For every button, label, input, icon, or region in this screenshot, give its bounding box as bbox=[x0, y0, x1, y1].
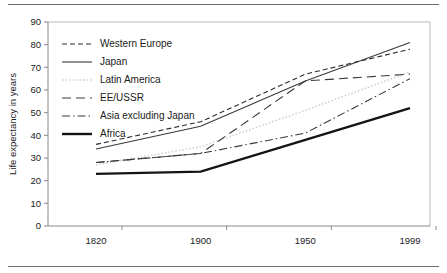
x-tick-label: 1820 bbox=[85, 235, 106, 246]
series-lines bbox=[96, 42, 410, 173]
top-rule bbox=[8, 4, 439, 5]
x-tick-label: 1900 bbox=[190, 235, 211, 246]
y-tick-label: 60 bbox=[30, 84, 41, 95]
plot-frame bbox=[48, 22, 430, 226]
y-tick-label: 30 bbox=[30, 152, 41, 163]
y-tick-label: 90 bbox=[30, 16, 41, 27]
legend-label: Western Europe bbox=[100, 38, 173, 49]
line-chart: 0102030405060708090 1820190019501999 Lif… bbox=[0, 10, 447, 260]
figure-container: 0102030405060708090 1820190019501999 Lif… bbox=[0, 0, 447, 273]
bottom-rule bbox=[8, 266, 439, 267]
legend-label: Japan bbox=[100, 56, 127, 67]
y-tick-label: 50 bbox=[30, 107, 41, 118]
x-axis: 1820190019501999 bbox=[48, 226, 436, 246]
legend-label: Africa bbox=[100, 128, 126, 139]
legend-label: Latin America bbox=[100, 74, 161, 85]
y-tick-label: 40 bbox=[30, 130, 41, 141]
y-tick-label: 10 bbox=[30, 198, 41, 209]
x-tick-label: 1999 bbox=[399, 235, 420, 246]
y-tick-label: 0 bbox=[36, 220, 41, 231]
y-tick-label: 20 bbox=[30, 175, 41, 186]
legend-label: Asia excluding Japan bbox=[100, 110, 195, 121]
legend-label: EE/USSR bbox=[100, 92, 144, 103]
chart-legend: Western EuropeJapanLatin AmericaEE/USSRA… bbox=[62, 38, 195, 139]
x-tick-label: 1950 bbox=[295, 235, 316, 246]
y-axis: 0102030405060708090 bbox=[30, 16, 48, 231]
y-axis-title: Life expectancy in years bbox=[7, 73, 18, 175]
y-tick-label: 80 bbox=[30, 39, 41, 50]
y-tick-label: 70 bbox=[30, 62, 41, 73]
chart-plot-area: 0102030405060708090 1820190019501999 Lif… bbox=[0, 10, 447, 260]
